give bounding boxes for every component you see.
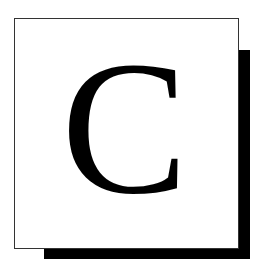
drop-shadow-right: [238, 50, 250, 259]
letter-glyph: C: [61, 33, 188, 223]
letter-glyph-container: C: [15, 19, 238, 248]
letter-tile: C: [14, 18, 239, 249]
drop-shadow-bottom: [44, 248, 250, 259]
